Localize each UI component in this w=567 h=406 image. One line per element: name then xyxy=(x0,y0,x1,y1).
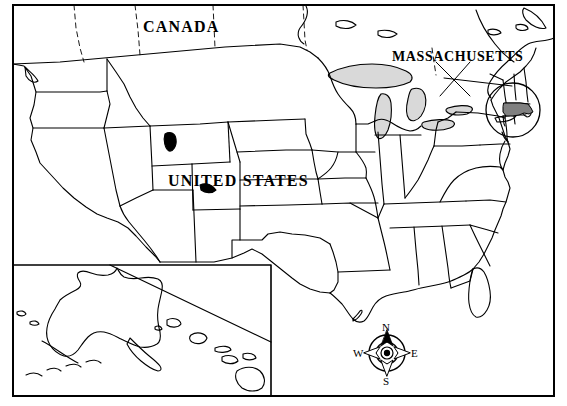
compass-east-label: E xyxy=(411,347,418,359)
lake-ontario xyxy=(446,106,472,115)
compass-north-label: N xyxy=(382,321,390,333)
great-salt-lake xyxy=(164,133,176,151)
massachusetts-highlight xyxy=(503,103,533,116)
compass-west-label: W xyxy=(353,347,363,359)
compass-south-label: S xyxy=(383,375,389,387)
map-artwork xyxy=(0,0,567,406)
lake-erie xyxy=(422,120,455,131)
map-container: CANADA UNITED STATES MASSACHUSETTS N S E… xyxy=(0,0,567,406)
